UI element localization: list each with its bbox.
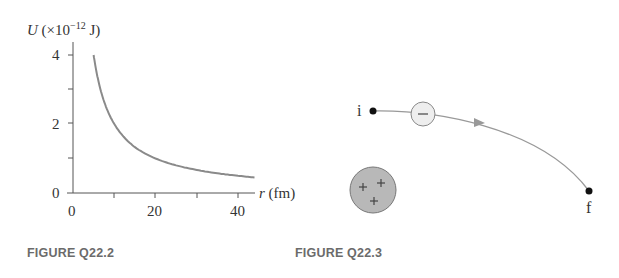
y-ticks (68, 55, 73, 158)
y-tick-4: 4 (52, 47, 60, 63)
positive-sphere (350, 167, 396, 213)
potential-energy-chart: U (×10−12 J) 4 2 0 0 20 40 r (fm) (27, 20, 295, 219)
energy-curve (94, 55, 255, 178)
x-axis-label: r (fm) (259, 185, 295, 202)
end-point (586, 188, 593, 195)
x-ticks (114, 193, 238, 198)
y-tick-2: 2 (52, 116, 60, 132)
x-tick-0: 0 (68, 203, 76, 219)
figure-caption-q22-3: FIGURE Q22.3 (295, 246, 382, 260)
y-tick-0: 0 (52, 185, 60, 201)
figures-canvas: U (×10−12 J) 4 2 0 0 20 40 r (fm) (0, 0, 619, 278)
start-point (370, 108, 377, 115)
figure-caption-q22-2: FIGURE Q22.2 (27, 246, 114, 260)
start-label: i (357, 102, 362, 119)
x-tick-20: 20 (147, 203, 162, 219)
x-tick-40: 40 (230, 203, 245, 219)
y-axis-label: U (×10−12 J) (27, 20, 100, 39)
charge-trajectory-diagram: i f (350, 102, 593, 216)
end-label: f (586, 199, 592, 216)
